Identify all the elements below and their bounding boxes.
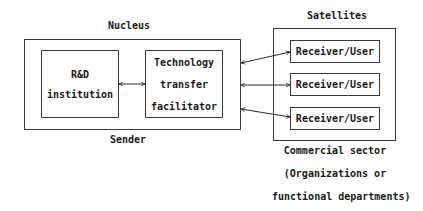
- tt-label-line2: transfer: [160, 79, 208, 90]
- tech-transfer-box: Technology transfer facilitator: [145, 50, 223, 118]
- receiver-user-box-2: Receiver/User: [290, 73, 380, 96]
- organizations-label: (Organizations or: [282, 169, 388, 179]
- receiver-user-label: Receiver/User: [296, 46, 374, 57]
- sender-label: Sender: [106, 135, 150, 145]
- receiver-user-label: Receiver/User: [296, 79, 374, 90]
- rd-label-line2: institution: [47, 89, 113, 100]
- rd-label-line1: R&D: [71, 69, 89, 80]
- commercial-sector-label: Commercial sector: [282, 146, 388, 156]
- rd-institution-box: R&D institution: [41, 50, 119, 118]
- receiver-user-box-3: Receiver/User: [290, 107, 380, 130]
- receiver-user-box-1: Receiver/User: [290, 40, 380, 63]
- receiver-user-label: Receiver/User: [296, 113, 374, 124]
- functional-departments-label: functional departments): [272, 192, 402, 202]
- tt-label-line1: Technology: [154, 57, 214, 68]
- nucleus-title: Nucleus: [104, 21, 154, 31]
- satellites-title: Satellites: [302, 11, 372, 21]
- tt-label-line3: facilitator: [151, 101, 217, 112]
